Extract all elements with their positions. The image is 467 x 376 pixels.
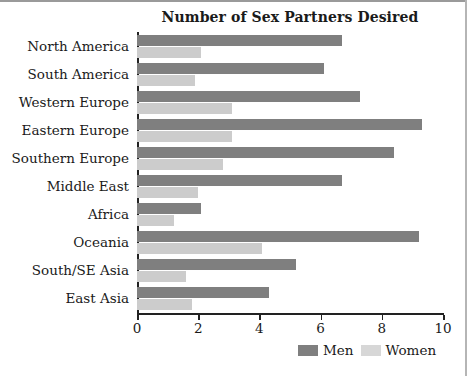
- x-tick-label: 10: [434, 320, 451, 336]
- x-tick-label: 2: [194, 320, 203, 336]
- x-tick-label: 6: [316, 320, 325, 336]
- category-label: Eastern Europe: [22, 124, 129, 138]
- bar-men: [137, 175, 342, 186]
- bar-women: [137, 215, 174, 226]
- bar-row: Southern Europe: [137, 145, 443, 173]
- bar-men: [137, 91, 360, 102]
- x-tick-label: 4: [255, 320, 264, 336]
- category-label: Middle East: [47, 180, 129, 194]
- legend-label-men: Men: [323, 344, 354, 358]
- category-label: Africa: [88, 208, 129, 222]
- plot-area: North AmericaSouth AmericaWestern Europe…: [137, 33, 443, 313]
- category-label: East Asia: [65, 292, 129, 306]
- bar-men: [137, 231, 419, 242]
- bar-row: Oceania: [137, 229, 443, 257]
- bar-row: East Asia: [137, 285, 443, 313]
- chart-figure: Number of Sex Partners Desired North Ame…: [0, 0, 467, 376]
- bar-row: Middle East: [137, 173, 443, 201]
- legend-swatch-men-icon: [298, 345, 318, 356]
- bar-women: [137, 131, 232, 142]
- bar-men: [137, 259, 296, 270]
- category-label: North America: [27, 40, 129, 54]
- chart-title: Number of Sex Partners Desired: [137, 9, 443, 25]
- bar-women: [137, 103, 232, 114]
- bar-women: [137, 187, 198, 198]
- chart-legend: Men Women: [298, 344, 436, 358]
- bar-men: [137, 203, 201, 214]
- bar-women: [137, 271, 186, 282]
- bar-row: Eastern Europe: [137, 117, 443, 145]
- bar-men: [137, 119, 422, 130]
- bar-row: Africa: [137, 201, 443, 229]
- bar-women: [137, 159, 223, 170]
- bar-women: [137, 243, 262, 254]
- bar-men: [137, 147, 394, 158]
- category-label: South America: [28, 68, 129, 82]
- bar-women: [137, 75, 195, 86]
- x-tick-label: 0: [133, 320, 142, 336]
- legend-entry-men: Men: [298, 344, 354, 358]
- bar-row: Western Europe: [137, 89, 443, 117]
- category-label: Oceania: [73, 236, 129, 250]
- x-axis-spine: [137, 313, 444, 315]
- bar-men: [137, 35, 342, 46]
- bar-women: [137, 47, 201, 58]
- bar-men: [137, 287, 269, 298]
- bar-men: [137, 63, 324, 74]
- bar-row: North America: [137, 33, 443, 61]
- bar-row: South America: [137, 61, 443, 89]
- bar-women: [137, 299, 192, 310]
- scan-edge-top: [0, 0, 467, 2]
- x-tick-label: 8: [378, 320, 387, 336]
- category-label: Western Europe: [19, 96, 129, 110]
- category-label: Southern Europe: [12, 152, 129, 166]
- legend-swatch-women-icon: [361, 345, 381, 356]
- legend-entry-women: Women: [361, 344, 437, 358]
- category-label: South/SE Asia: [32, 264, 129, 278]
- bar-row: South/SE Asia: [137, 257, 443, 285]
- legend-label-women: Women: [386, 344, 437, 358]
